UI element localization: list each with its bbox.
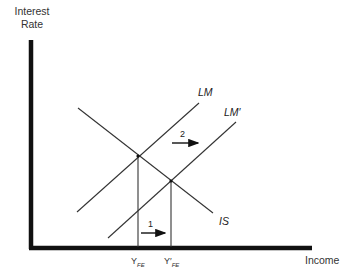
arrow-2-label: 2 [180,129,185,139]
lm-label: LM [198,86,213,98]
arrow-1-label: 1 [148,219,153,229]
lm-prime-label: LM′ [224,106,241,118]
equilibrium-point-1 [136,154,139,157]
y-fe-prime-symbol: Y′ [164,256,172,266]
y-fe-prime-subscript: FE [172,262,180,268]
equilibrium-point-2 [169,179,172,182]
y-fe-subscript: FE [137,262,145,268]
is-lm-diagram [0,0,349,280]
y-fe-prime-tick-label: Y′FE [164,256,179,268]
x-axis-label: Income [305,254,339,266]
is-label: IS [219,215,229,227]
y-fe-tick-label: YFE [131,256,145,268]
